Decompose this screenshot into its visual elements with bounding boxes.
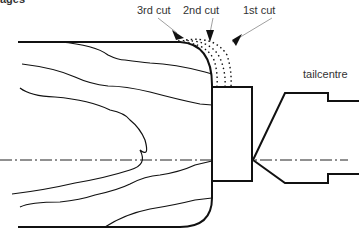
label-3rd-cut: 3rd cut	[137, 5, 171, 16]
cut-zones	[170, 39, 231, 87]
leader-lines	[158, 18, 272, 42]
label-2nd-cut: 2nd cut	[183, 5, 219, 16]
label-1st-cut: 1st cut	[243, 5, 275, 16]
arrowheads	[172, 30, 242, 46]
spigot	[212, 87, 252, 181]
woodturning-diagram	[0, 0, 359, 228]
tailcentre	[253, 93, 359, 183]
wood-blank-outline	[18, 42, 212, 227]
label-tailcentre: tailcentre	[303, 69, 348, 80]
